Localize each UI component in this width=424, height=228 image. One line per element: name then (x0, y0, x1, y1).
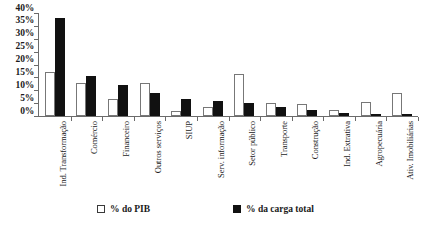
x-axis-category-label: SIUP (185, 121, 194, 139)
x-tick-mark (355, 117, 356, 121)
x-tick-mark (292, 117, 293, 121)
bar-group (297, 13, 317, 116)
bar-group (329, 13, 349, 116)
bar-group (108, 13, 128, 116)
x-tick-mark (134, 117, 135, 121)
x-axis-category-label: Ind. Extrativa (343, 121, 352, 167)
legend-swatch-carga-icon (233, 205, 241, 213)
bar-carga (181, 99, 191, 116)
bar-pib (76, 83, 86, 116)
bar-group (171, 13, 191, 116)
bar-pib (266, 103, 276, 116)
y-tick-mark (34, 90, 38, 91)
x-tick-mark (229, 117, 230, 121)
bar-pib (234, 74, 244, 116)
bar-carga (55, 18, 65, 116)
bar-carga (118, 85, 128, 116)
y-tick-label: 10% (0, 81, 34, 91)
bar-pib (329, 110, 339, 116)
x-axis-category-label: Ativ. Imobiliárias (406, 121, 415, 180)
bar-group (392, 13, 412, 116)
bar-pib (171, 111, 181, 116)
bar-group (140, 13, 160, 116)
x-axis-category-label: Serv. informação (217, 121, 226, 178)
x-axis-category-label: Outros serviços (154, 121, 163, 173)
y-tick-mark (34, 26, 38, 27)
bar-pib (392, 93, 402, 116)
y-tick-label: 25% (0, 42, 34, 52)
y-tick-label: 5% (0, 94, 34, 104)
bar-carga (213, 101, 223, 116)
bar-group (234, 13, 254, 116)
legend-label: % do PIB (110, 204, 150, 214)
bar-carga (86, 76, 96, 116)
bar-carga (244, 103, 254, 116)
bar-carga (307, 110, 317, 116)
y-tick-mark (34, 39, 38, 40)
legend-swatch-pib-icon (97, 205, 105, 213)
bar-group (76, 13, 96, 116)
x-tick-mark (197, 117, 198, 121)
chart-legend: % do PIB% da carga total (0, 204, 424, 224)
bar-pib (361, 102, 371, 116)
y-tick-mark (34, 77, 38, 78)
bar-group (203, 13, 223, 116)
x-tick-mark (71, 117, 72, 121)
y-tick-label: 0% (0, 107, 34, 117)
bar-carga (371, 114, 381, 116)
bar-pib (297, 104, 307, 116)
legend-item: % do PIB (97, 204, 150, 214)
bar-pib (203, 107, 213, 116)
y-tick-mark (34, 13, 38, 14)
y-tick-label: 40% (0, 4, 34, 14)
x-tick-mark (260, 117, 261, 121)
bar-group (361, 13, 381, 116)
x-tick-mark (323, 117, 324, 121)
x-axis-category-label: Agropecuária (375, 121, 384, 167)
x-axis-labels: Ind. TransformaçãoComércioFinanceiroOutr… (39, 121, 418, 201)
y-axis-labels: 40%35%30%25%20%15%10%5%0% (0, 8, 34, 120)
x-axis-category-label: Ind. Transformação (59, 121, 68, 187)
x-tick-mark (386, 117, 387, 121)
y-tick-mark (34, 52, 38, 53)
y-tick-mark (34, 116, 38, 117)
bar-pib (45, 72, 55, 116)
x-tick-mark (165, 117, 166, 121)
legend-label: % da carga total (246, 204, 314, 214)
bar-carga (276, 107, 286, 116)
plot-area (39, 13, 418, 116)
y-tick-mark (34, 65, 38, 66)
y-tick-label: 30% (0, 29, 34, 39)
y-tick-label: 20% (0, 55, 34, 65)
x-axis-category-label: Comércio (90, 121, 99, 154)
y-tick-label: 15% (0, 68, 34, 78)
legend-item: % da carga total (233, 204, 314, 214)
x-axis-category-label: Setor público (248, 121, 257, 166)
bar-pib (108, 99, 118, 116)
bar-carga (402, 114, 412, 116)
x-axis-category-label: Transporte (280, 121, 289, 157)
bar-chart: 40%35%30%25%20%15%10%5%0% Ind. Transform… (0, 0, 424, 228)
bar-pib (140, 83, 150, 116)
x-axis-category-label: Financeiro (122, 121, 131, 157)
y-tick-label: 35% (0, 16, 34, 26)
x-axis-category-label: Construção (311, 121, 320, 159)
x-tick-mark (418, 117, 419, 121)
bar-carga (339, 113, 349, 116)
bar-group (45, 13, 65, 116)
bar-carga (150, 93, 160, 116)
y-tick-mark (34, 103, 38, 104)
bar-group (266, 13, 286, 116)
x-tick-mark (102, 117, 103, 121)
